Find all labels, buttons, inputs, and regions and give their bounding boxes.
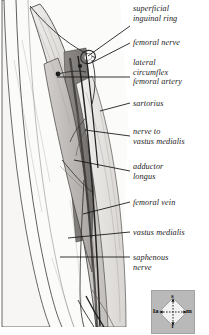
compass-label-superior: s xyxy=(171,293,174,300)
label-vastus-medialis: vastus medialis xyxy=(133,228,185,238)
label-sartorius: sartorius xyxy=(133,99,163,109)
label-adductor-longus: adductor longus xyxy=(133,162,163,181)
orientation-compass: s i la m xyxy=(151,290,195,334)
compass-label-inferior: i xyxy=(172,323,174,330)
label-saphenous-nerve: saphenous nerve xyxy=(133,253,168,272)
label-nerve-to-vastus-medialis: nerve to vastus medialis xyxy=(133,127,185,146)
anatomical-illustration xyxy=(0,0,209,335)
label-femoral-nerve: femoral nerve xyxy=(133,38,180,48)
compass-label-lateral: la xyxy=(153,308,158,315)
label-lateral-circumflex-femoral-artery: lateral circumflex femoral artery xyxy=(133,58,182,87)
dissection-drawing xyxy=(2,0,128,327)
label-superficial-inguinal-ring: superficial inguinal ring xyxy=(133,4,177,23)
compass-label-medial: m xyxy=(186,308,192,315)
label-femoral-vein: femoral vein xyxy=(133,198,175,208)
